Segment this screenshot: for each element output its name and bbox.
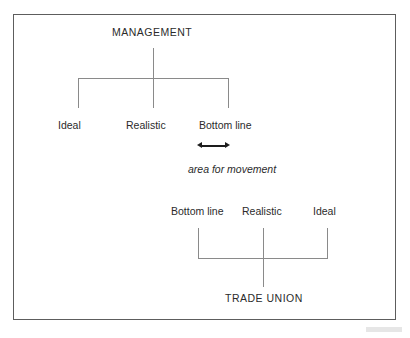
negotiation-positions-diagram: MANAGEMENT Ideal Realistic Bottom line a… — [0, 0, 410, 338]
area-for-movement-arrow — [197, 141, 230, 150]
trade-union-riser-ideal — [327, 228, 328, 258]
management-heading: MANAGEMENT — [112, 27, 192, 38]
trade-union-position-bottom-line: Bottom line — [171, 206, 224, 217]
trade-union-riser-realistic — [263, 228, 264, 258]
management-stem-line — [153, 48, 154, 78]
management-drop-realistic — [153, 78, 154, 108]
management-drop-bottom-line — [228, 78, 229, 108]
trade-union-position-realistic: Realistic — [242, 206, 282, 217]
arrow-head-right-icon — [225, 142, 230, 148]
management-position-bottom-line: Bottom line — [199, 120, 252, 131]
scan-artifact — [366, 327, 402, 332]
management-drop-ideal — [78, 78, 79, 108]
management-position-realistic: Realistic — [126, 120, 166, 131]
trade-union-position-ideal: Ideal — [313, 206, 336, 217]
management-position-ideal: Ideal — [58, 120, 81, 131]
area-for-movement-caption: area for movement — [188, 164, 276, 175]
trade-union-riser-bottom-line — [198, 228, 199, 258]
trade-union-heading: TRADE UNION — [225, 293, 303, 304]
trade-union-stem-line — [263, 258, 264, 287]
arrow-shaft — [201, 145, 226, 147]
